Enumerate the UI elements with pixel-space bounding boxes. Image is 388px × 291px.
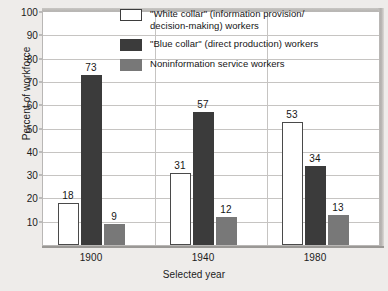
y-tick-label-40: 40 — [27, 146, 38, 157]
legend-item-gray: Noninformation service workers — [120, 58, 336, 71]
y-tick-label-10: 10 — [27, 216, 38, 227]
bar-value-1980-white: 53 — [276, 109, 309, 120]
chart-legend: "White collar" (information provision/de… — [120, 8, 336, 78]
y-tick-label-60: 60 — [27, 100, 38, 111]
legend-swatch-white — [120, 9, 142, 21]
y-tick-label-80: 80 — [27, 53, 38, 64]
y-tick-label-30: 30 — [27, 170, 38, 181]
legend-label-white: "White collar" (information provision/de… — [150, 8, 304, 31]
bar-1980-gray — [328, 215, 349, 245]
x-tick-label-1980: 1980 — [304, 252, 327, 263]
legend-label-line2: decision-making) workers — [150, 20, 304, 32]
legend-label-line1: Noninformation service workers — [150, 58, 285, 70]
bar-value-1980-dark: 34 — [299, 153, 332, 164]
legend-label-line1: "Blue collar" (direct production) worker… — [150, 38, 318, 50]
bar-1900-white — [58, 203, 79, 245]
legend-swatch-dark — [120, 39, 142, 51]
bar-value-1940-gray: 12 — [210, 204, 243, 215]
y-tick-label-100: 100 — [21, 7, 38, 18]
bar-1940-white — [170, 173, 191, 245]
bar-value-1940-dark: 57 — [187, 99, 220, 110]
legend-label-gray: Noninformation service workers — [150, 58, 285, 70]
legend-item-dark: "Blue collar" (direct production) worker… — [120, 38, 336, 51]
x-axis-line — [42, 246, 384, 248]
y-tick-label-50: 50 — [27, 123, 38, 134]
bar-value-1900-gray: 9 — [98, 211, 131, 222]
chart-figure: Percent of workforce 1009080706050403020… — [0, 0, 388, 291]
bar-1980-white — [282, 122, 303, 245]
x-tick-label-1940: 1940 — [192, 252, 215, 263]
bar-1940-gray — [216, 217, 237, 245]
y-tick-label-20: 20 — [27, 193, 38, 204]
bar-value-1980-gray: 13 — [322, 202, 355, 213]
bar-1940-dark — [193, 112, 214, 245]
legend-swatch-gray — [120, 59, 142, 71]
bar-1900-gray — [104, 224, 125, 245]
legend-label-dark: "Blue collar" (direct production) worker… — [150, 38, 318, 50]
legend-label-line1: "White collar" (information provision/ — [150, 8, 304, 20]
y-axis-tick-labels: 100908070605040302010 — [16, 12, 38, 245]
x-tick-label-1900: 1900 — [80, 252, 103, 263]
y-tick-label-90: 90 — [27, 30, 38, 41]
y-tick-label-70: 70 — [27, 76, 38, 87]
bar-value-1900-dark: 73 — [75, 62, 108, 73]
legend-item-white: "White collar" (information provision/de… — [120, 8, 336, 31]
x-axis-title: Selected year — [0, 269, 388, 280]
